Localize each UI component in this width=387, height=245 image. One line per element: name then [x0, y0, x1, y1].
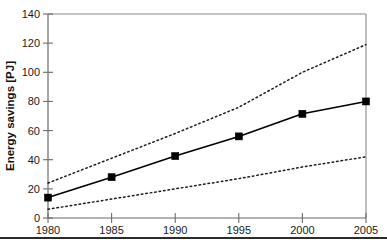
energy-savings-line-chart: 140 120 100 80 60 40 20 0 1980 1985 1990… [0, 0, 387, 245]
x-tick-label-1995: 1995 [227, 224, 251, 236]
y-tick-label-140: 140 [22, 8, 40, 20]
x-tick-label-2000: 2000 [290, 224, 314, 236]
data-series-layer [45, 45, 370, 210]
y-tick-label-80: 80 [28, 95, 40, 107]
y-tick-label-100: 100 [22, 66, 40, 78]
chart-figure: 140 120 100 80 60 40 20 0 1980 1985 1990… [0, 0, 387, 245]
x-tick-label-1990: 1990 [163, 224, 187, 236]
y-axis-title: Energy savings [PJ] [4, 61, 16, 171]
y-tick-label-60: 60 [28, 125, 40, 137]
data-point-marker-1980 [45, 194, 52, 201]
y-axis-tick-labels: 140 120 100 80 60 40 20 0 [22, 8, 40, 224]
x-tick-label-1985: 1985 [99, 224, 123, 236]
series-line-0 [48, 101, 366, 197]
y-tick-label-20: 20 [28, 183, 40, 195]
data-point-marker-1990 [172, 153, 179, 160]
x-axis-tick-labels: 1980 1985 1990 1995 2000 2005 [36, 224, 378, 236]
data-point-marker-2000 [299, 110, 306, 117]
x-tick-label-2005: 2005 [354, 224, 378, 236]
y-tick-label-120: 120 [22, 37, 40, 49]
data-point-marker-1985 [108, 174, 115, 181]
data-point-marker-2005 [363, 98, 370, 105]
series-line-1 [48, 45, 366, 183]
y-tick-label-0: 0 [34, 212, 40, 224]
data-point-marker-1995 [235, 133, 242, 140]
x-tick-label-1980: 1980 [36, 224, 60, 236]
plot-frame [48, 14, 366, 218]
y-tick-label-40: 40 [28, 154, 40, 166]
